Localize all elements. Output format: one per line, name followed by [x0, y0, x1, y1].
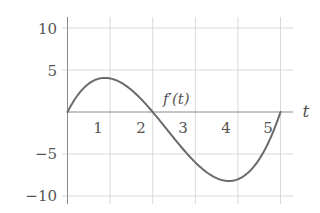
x-tick-label-4: 4 — [221, 119, 231, 137]
grid-lines — [62, 17, 293, 204]
chart: 1 2 3 4 5 10 5 −5 −10 t f′(t) — [0, 0, 320, 213]
y-tick-label-5: 5 — [47, 62, 57, 80]
x-axis-label: t — [303, 101, 310, 121]
y-tick-label-10: 10 — [38, 20, 57, 38]
x-tick-label-2: 2 — [136, 119, 146, 137]
y-tick-label-neg5: −5 — [35, 145, 57, 163]
x-tick-label-5: 5 — [263, 119, 273, 137]
x-tick-label-1: 1 — [93, 119, 103, 137]
curve-label: f′(t) — [162, 90, 190, 108]
x-tick-label-3: 3 — [178, 119, 188, 137]
axes — [68, 17, 294, 204]
y-tick-label-neg10: −10 — [25, 187, 57, 205]
